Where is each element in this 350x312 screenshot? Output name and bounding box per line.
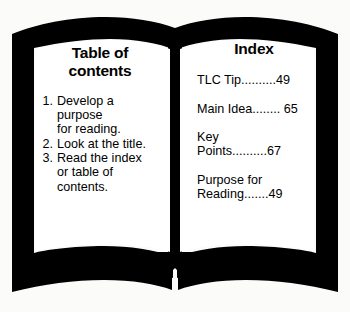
list-item: 3. Read the indexor table ofcontents. (36, 151, 168, 194)
table-of-contents-list: 1. Develop apurposefor reading. 2. Look … (36, 94, 168, 194)
left-page-content: Table ofcontents 1. Develop apurposefor … (36, 44, 168, 194)
index-entry: Purpose forReading.......49 (197, 173, 319, 202)
table-of-contents-title: Table ofcontents (36, 44, 168, 81)
right-page-content: Index TLC Tip..........49 Main Idea.....… (197, 40, 319, 215)
index-entry-list: TLC Tip..........49 Main Idea........ 65… (197, 73, 319, 201)
list-item: 2. Look at the title. (36, 137, 168, 151)
list-item-number: 3. (36, 151, 53, 165)
list-item-text: Develop apurposefor reading. (57, 94, 121, 137)
list-item-number: 2. (36, 137, 53, 151)
index-entry: KeyPoints..........67 (197, 130, 319, 159)
book-illustration: Table ofcontents 1. Develop apurposefor … (0, 0, 350, 312)
index-entry: Main Idea........ 65 (197, 102, 319, 116)
list-item: 1. Develop apurposefor reading. (36, 94, 168, 137)
index-title: Index (197, 40, 319, 57)
list-item-text: Read the indexor table ofcontents. (57, 151, 142, 194)
index-entry: TLC Tip..........49 (197, 73, 319, 87)
list-item-text: Look at the title. (57, 137, 146, 151)
list-item-number: 1. (36, 94, 53, 108)
